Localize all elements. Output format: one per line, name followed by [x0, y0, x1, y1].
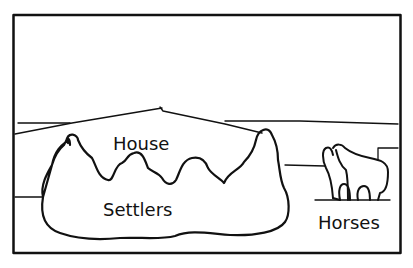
house-label: House: [113, 133, 169, 154]
settlers-label: Settlers: [103, 199, 172, 220]
horses-label: Horses: [318, 212, 380, 233]
scene-diagram: House Settlers Horses: [0, 0, 413, 268]
fence-lines: [15, 148, 398, 200]
house-roof: [15, 107, 398, 134]
